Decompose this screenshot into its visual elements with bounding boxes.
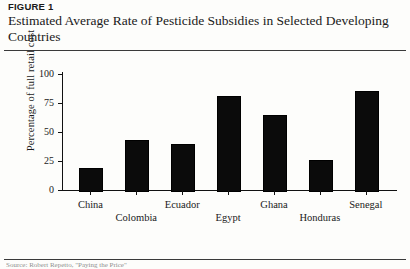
x-axis-category-label: Ecuador <box>137 199 227 210</box>
y-tick <box>58 161 63 162</box>
bar <box>79 168 103 192</box>
y-tick <box>58 132 63 133</box>
y-tick-label: 75 <box>28 98 54 108</box>
footer-divider <box>4 259 406 260</box>
y-axis-label: Percentage of full retail cost <box>25 21 36 161</box>
x-tick <box>320 190 321 195</box>
x-axis-category-label: Ghana <box>229 199 319 210</box>
x-tick <box>274 190 275 195</box>
bar-chart: Percentage of full retail cost 025507510… <box>0 0 410 269</box>
x-axis-category-label: Egypt <box>183 212 273 223</box>
bar <box>217 96 241 192</box>
x-axis-category-label: China <box>45 199 135 210</box>
x-tick <box>228 190 229 195</box>
bar <box>309 160 333 192</box>
x-tick <box>136 190 137 195</box>
bar <box>263 115 287 192</box>
y-tick <box>58 190 63 191</box>
x-tick <box>366 190 367 195</box>
y-tick-label: 25 <box>28 156 54 166</box>
source-note: Source: Robert Repetto, "Paying the Pric… <box>6 261 406 269</box>
y-tick-label: 50 <box>28 127 54 137</box>
x-axis-category-label: Colombia <box>91 212 181 223</box>
bar <box>125 140 149 192</box>
bar <box>171 144 195 192</box>
x-tick <box>182 190 183 195</box>
x-tick <box>90 190 91 195</box>
x-axis-category-label: Senegal <box>321 199 410 210</box>
bar <box>355 91 379 192</box>
y-tick <box>58 74 63 75</box>
y-tick-label: 100 <box>28 69 54 79</box>
y-tick <box>58 103 63 104</box>
y-tick-label: 0 <box>28 185 54 195</box>
x-axis-category-label: Honduras <box>275 212 365 223</box>
figure-page: FIGURE 1 Estimated Average Rate of Pesti… <box>0 0 410 269</box>
